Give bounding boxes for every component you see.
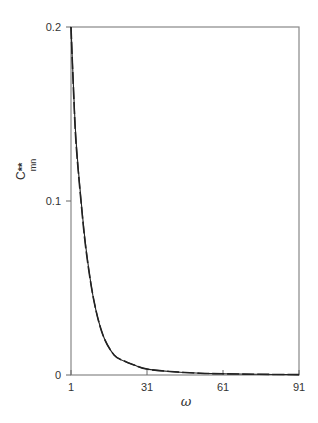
- series-line-dashed: [71, 27, 299, 375]
- y-axis-title-sup: **: [16, 163, 28, 172]
- y-tick-label: 0.1: [46, 195, 61, 207]
- x-tick-label: 61: [217, 381, 229, 393]
- y-tick-label: 0: [55, 369, 61, 381]
- chart-canvas: 131619100.10.2 ω: [0, 0, 318, 423]
- y-axis-title-sub: mn: [28, 159, 38, 172]
- y-axis-title: C ** mn: [14, 157, 28, 180]
- series-line-solid: [71, 27, 299, 375]
- plot-frame: [71, 27, 299, 375]
- data-series: [71, 27, 299, 375]
- x-tick-label: 1: [68, 381, 74, 393]
- y-tick-label: 0.2: [46, 21, 61, 33]
- axis-ticks: 131619100.10.2: [46, 21, 305, 393]
- y-axis-title-main: C: [14, 171, 28, 180]
- x-axis-title: ω: [181, 394, 192, 409]
- x-tick-label: 91: [293, 381, 305, 393]
- x-tick-label: 31: [141, 381, 153, 393]
